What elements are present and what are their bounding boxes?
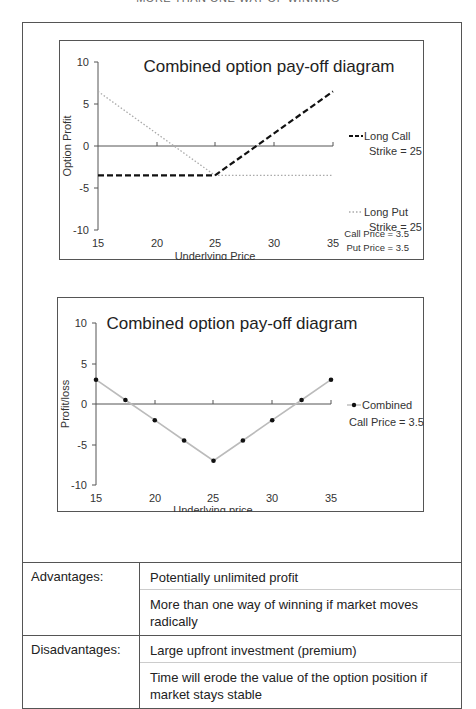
chart2-y-ticks: [92, 323, 96, 485]
chart2-x-tick-labels: 15 20 25 30 35: [90, 492, 337, 504]
chart1-call-price: Call Price = 3.5: [344, 228, 409, 239]
svg-text:-10: -10: [73, 224, 89, 236]
svg-text:30: 30: [268, 237, 280, 249]
svg-text:10: 10: [77, 56, 89, 68]
chart2-svg: Combined option pay-off diagram 10 5 0 -…: [57, 297, 424, 512]
svg-text:5: 5: [81, 358, 87, 370]
chart1-title: Combined option pay-off diagram: [143, 57, 394, 76]
legend-long-put-label: Long Put: [364, 206, 408, 218]
svg-text:-10: -10: [71, 479, 87, 491]
series-long-put: [98, 91, 333, 175]
chart-option-payoff: Combined option pay-off diagram 10 5 0 -…: [59, 40, 424, 260]
chart2-y-label: Profit/loss: [59, 379, 71, 428]
table-row-disadvantages: Disadvantages: Large upfront investment …: [23, 636, 462, 709]
svg-text:0: 0: [83, 140, 89, 152]
chart1-put-price: Put Price = 3.5: [346, 242, 409, 253]
chart1-y-ticks: [94, 62, 98, 230]
advantages-table: Advantages: Potentially unlimited profit…: [22, 562, 462, 709]
chart2-x-label: Underlying price: [173, 504, 252, 512]
svg-text:-5: -5: [77, 439, 87, 451]
svg-text:25: 25: [209, 237, 221, 249]
list-item: Potentially unlimited profit: [140, 563, 461, 590]
svg-text:25: 25: [207, 492, 219, 504]
chart-combined-payoff: Combined option pay-off diagram 10 5 0 -…: [57, 297, 424, 512]
chart1-x-label: Underlying Price: [175, 250, 256, 260]
chart1-y-label: Option Profit: [61, 115, 73, 176]
legend-combined-marker: [352, 403, 356, 407]
chart2-y-tick-labels: 10 5 0 -5 -10: [71, 317, 87, 491]
legend-combined-label: Combined: [362, 399, 412, 411]
table-row-advantages: Advantages: Potentially unlimited profit…: [23, 563, 462, 636]
chart2-x-ticks: [155, 400, 331, 404]
advantages-label: Advantages:: [23, 563, 140, 636]
svg-text:15: 15: [92, 237, 104, 249]
page-header-clipped: MORE THAN ONE WAY OF WINNING: [0, 0, 476, 6]
advantages-items: Potentially unlimited profit More than o…: [140, 563, 462, 636]
svg-text:0: 0: [81, 398, 87, 410]
chart1-y-tick-labels: 10 5 0 -5 -10: [73, 56, 89, 236]
svg-text:20: 20: [151, 237, 163, 249]
legend-long-call-strike: Strike = 25: [369, 145, 422, 157]
legend-long-call-label: Long Call: [364, 130, 410, 142]
series-long-call: [98, 91, 333, 175]
chart1-x-tick-labels: 15 20 25 30 35: [92, 237, 339, 249]
svg-text:5: 5: [83, 98, 89, 110]
list-item: Large upfront investment (premium): [140, 636, 461, 663]
svg-text:30: 30: [266, 492, 278, 504]
list-item: Time will erode the value of the option …: [140, 663, 461, 708]
series-combined-line: [96, 380, 331, 461]
chart2-title: Combined option pay-off diagram: [106, 314, 357, 333]
list-item: More than one way of winning if market m…: [140, 590, 461, 635]
disadvantages-label: Disadvantages:: [23, 636, 140, 709]
svg-text:35: 35: [325, 492, 337, 504]
chart1-svg: Combined option pay-off diagram 10 5 0 -…: [59, 40, 424, 260]
svg-text:-5: -5: [79, 182, 89, 194]
svg-text:10: 10: [75, 317, 87, 329]
svg-text:35: 35: [327, 237, 339, 249]
series-combined-markers: [94, 377, 334, 463]
chart1-x-ticks: [157, 142, 333, 146]
svg-text:15: 15: [90, 492, 102, 504]
chart2-call-price: Call Price = 3.5: [349, 416, 424, 428]
disadvantages-items: Large upfront investment (premium) Time …: [140, 636, 462, 709]
svg-text:20: 20: [149, 492, 161, 504]
